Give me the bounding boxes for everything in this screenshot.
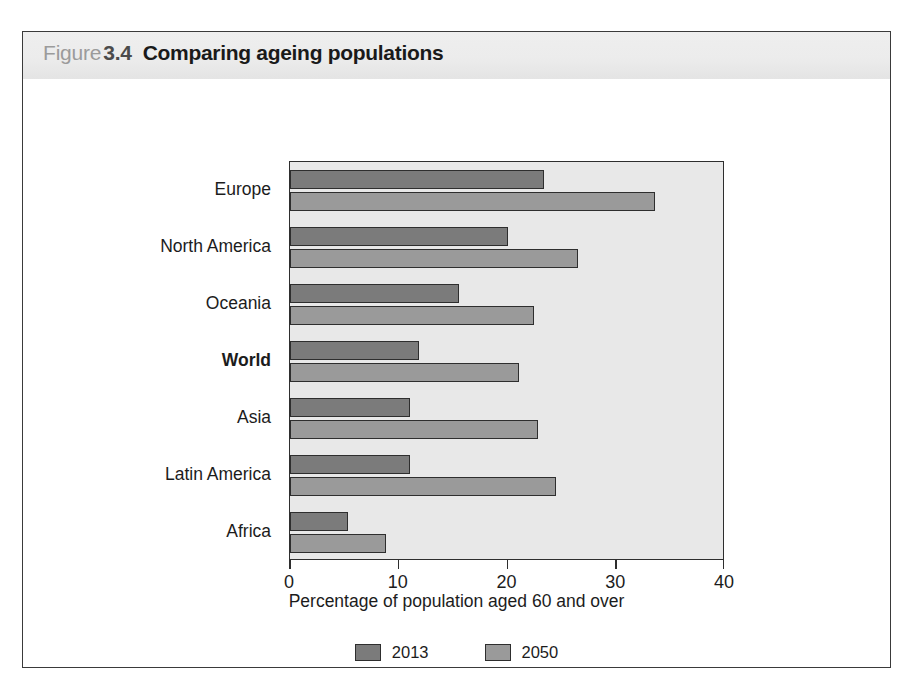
- figure-caption: Figure3.4Comparing ageing populations: [43, 41, 443, 65]
- figure-frame: Figure3.4Comparing ageing populations Eu…: [22, 31, 891, 668]
- bar-oceania-2050: [290, 306, 534, 325]
- bar-europe-2013: [290, 170, 544, 189]
- figure-number: 3.4: [103, 41, 131, 64]
- bar-north-america-2013: [290, 227, 508, 246]
- legend-label-2013: 2013: [392, 643, 429, 662]
- y-label-oceania: Oceania: [206, 293, 271, 314]
- x-tick-label-30: 30: [605, 572, 625, 593]
- bar-latin-america-2013: [290, 455, 410, 474]
- y-label-europe: Europe: [215, 179, 271, 200]
- x-tick-20: [507, 560, 509, 569]
- legend-swatch-2050: [485, 644, 511, 661]
- bar-north-america-2050: [290, 249, 578, 268]
- x-tick-label-0: 0: [284, 572, 294, 593]
- chart-legend: 20132050: [23, 643, 890, 662]
- y-label-latin-america: Latin America: [165, 464, 271, 485]
- x-tick-label-20: 20: [496, 572, 516, 593]
- source-note: [24, 677, 884, 695]
- bar-latin-america-2050: [290, 477, 556, 496]
- x-tick-label-10: 10: [388, 572, 408, 593]
- legend-item-2050[interactable]: 2050: [485, 643, 559, 662]
- bar-europe-2050: [290, 192, 655, 211]
- legend-item-2013[interactable]: 2013: [355, 643, 429, 662]
- bar-africa-2013: [290, 512, 348, 531]
- x-axis-title: Percentage of population aged 60 and ove…: [23, 591, 890, 612]
- x-tick-label-40: 40: [714, 572, 734, 593]
- bar-asia-2050: [290, 420, 538, 439]
- y-label-africa: Africa: [226, 521, 271, 542]
- x-tick-0: [289, 560, 291, 569]
- plot-area: [289, 161, 724, 560]
- y-label-asia: Asia: [237, 407, 271, 428]
- chart-canvas: EuropeNorth AmericaOceaniaWorldAsiaLatin…: [23, 79, 890, 667]
- figure-title: Comparing ageing populations: [143, 41, 444, 64]
- bar-world-2050: [290, 363, 519, 382]
- y-axis-category-labels: EuropeNorth AmericaOceaniaWorldAsiaLatin…: [63, 161, 281, 560]
- bar-africa-2050: [290, 534, 386, 553]
- x-tick-30: [615, 560, 617, 569]
- figure-header-band: Figure3.4Comparing ageing populations: [23, 32, 890, 79]
- legend-swatch-2013: [355, 644, 381, 661]
- bars-container: [290, 162, 723, 559]
- bar-world-2013: [290, 341, 419, 360]
- y-label-north-america: North America: [160, 236, 271, 257]
- legend-label-2050: 2050: [522, 643, 559, 662]
- x-axis: 010203040: [289, 560, 724, 561]
- bar-oceania-2013: [290, 284, 459, 303]
- x-tick-10: [398, 560, 400, 569]
- x-tick-40: [723, 560, 725, 569]
- figure-label-word: Figure: [43, 41, 101, 64]
- y-label-world: World: [222, 350, 271, 371]
- bar-asia-2013: [290, 398, 410, 417]
